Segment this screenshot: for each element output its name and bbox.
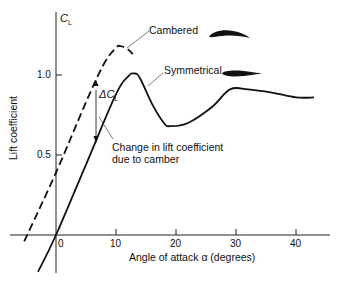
y-axis-symbol: CL — [60, 12, 72, 26]
cambered-leader-line — [127, 31, 149, 48]
y-axis-title: Lift coefficient — [7, 85, 19, 171]
cambered-label: Cambered — [149, 24, 198, 36]
delta-cl-subscript: L — [114, 95, 118, 102]
symmetrical-label: Symmetrical — [164, 64, 222, 76]
x-axis-title: Angle of attack α (degrees) — [129, 251, 255, 263]
cl-subscript: L — [68, 19, 72, 26]
delta-cl-label: ΔCL — [99, 88, 118, 102]
x-tick-label-20: 20 — [170, 238, 181, 250]
x-tick-label-40: 40 — [290, 238, 301, 250]
symmetrical-leader-line — [148, 73, 163, 86]
x-ticks — [116, 229, 296, 235]
cambered-airfoil-icon — [209, 30, 250, 38]
y-tick-label-0.5: 0.5 — [37, 149, 51, 161]
x-tick-label-30: 30 — [230, 238, 241, 250]
delta-cl-arrow — [94, 80, 99, 143]
change-annotation-line2: due to camber — [112, 153, 179, 165]
x-tick-label-0: 0 — [58, 238, 64, 250]
symmetrical-airfoil-icon — [222, 71, 262, 77]
cl-symbol: C — [60, 12, 68, 24]
y-tick-label-1.0: 1.0 — [37, 69, 51, 81]
y-ticks — [56, 75, 62, 155]
change-annotation-line1: Change in lift coefficient — [112, 141, 223, 153]
x-tick-label-10: 10 — [110, 238, 121, 250]
delta-cl-symbol: ΔC — [99, 88, 114, 100]
